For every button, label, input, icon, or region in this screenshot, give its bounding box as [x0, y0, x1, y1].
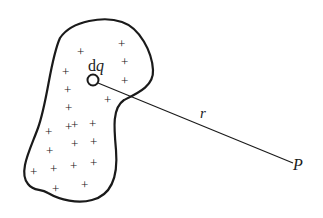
label-point-p: P [292, 156, 303, 173]
plus-icon: + [64, 82, 71, 97]
plus-icon: + [118, 36, 125, 51]
charge-element-dq-circle [88, 75, 99, 86]
plus-icon: + [71, 136, 78, 151]
plus-icon: + [104, 92, 111, 107]
plus-icon: + [45, 124, 52, 139]
plus-icon: + [46, 143, 53, 158]
plus-icon: + [90, 155, 97, 170]
plus-icon: + [50, 161, 57, 176]
plus-icon: + [90, 134, 97, 149]
label-dq: dq [88, 57, 104, 75]
plus-icon: + [121, 73, 128, 88]
plus-icon: + [89, 116, 96, 131]
plus-icon: + [30, 164, 37, 179]
charged-body-outline [24, 19, 153, 201]
charge-distribution-diagram: + + + + + + + + + + + + + + + + + + + + … [0, 0, 323, 218]
label-r: r [200, 105, 206, 121]
plus-icon: + [52, 181, 59, 196]
positive-charges: + + + + + + + + + + + + + + + + + + + + … [30, 36, 128, 196]
plus-icon: + [70, 158, 77, 173]
plus-icon: + [81, 177, 88, 192]
plus-icon: + [77, 44, 84, 59]
plus-icon: + [71, 117, 78, 132]
plus-icon: + [65, 100, 72, 115]
distance-line-r [98, 83, 293, 163]
plus-icon: + [62, 64, 69, 79]
plus-icon: + [121, 54, 128, 69]
